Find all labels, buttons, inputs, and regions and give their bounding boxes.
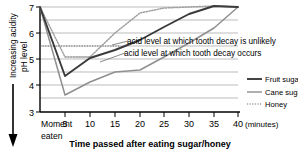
annotation-tooth-decay-occurs: acid level at which tooth decay occurs — [124, 49, 261, 58]
ph-level-line-chart: 7 6 5 4 3 5 10 15 20 25 30 35 40 ( — [0, 0, 298, 152]
annotation-tooth-decay-unlikely: acid level at which tooth decay is unlik… — [127, 37, 277, 46]
legend-label-honey: Honey — [265, 100, 287, 109]
legend-label-fruit-sugar: Fruit sugar — [265, 75, 298, 84]
chart-container: 7 6 5 4 3 5 10 15 20 25 30 35 40 ( — [0, 0, 298, 152]
legend-label-cane-sugar: Cane sugar — [265, 88, 298, 97]
origin-label-line1: Moment — [41, 119, 73, 129]
y-tick-label-4: 4 — [29, 81, 34, 91]
x-tick-label-25: 25 — [159, 119, 169, 129]
x-tick-label-40: 40 — [233, 119, 243, 129]
x-tick-label-30: 30 — [184, 119, 194, 129]
x-tick-label-20: 20 — [135, 119, 145, 129]
y-axis-title-acidity: Increasing acidity — [8, 12, 18, 78]
x-tick-label-10: 10 — [85, 119, 95, 129]
x-axis-unit-label: (minutes) — [245, 120, 279, 129]
y-tick-label-3: 3 — [29, 108, 34, 118]
y-axis-title-ph: pH level — [19, 42, 29, 72]
origin-label-line2: eaten — [41, 131, 63, 141]
x-tick-label-15: 15 — [110, 119, 120, 129]
y-tick-label-6: 6 — [29, 29, 34, 39]
y-tick-label-5: 5 — [29, 55, 34, 65]
x-axis-title: Time passed after eating sugar/honey — [69, 139, 230, 149]
y-tick-label-7: 7 — [29, 3, 34, 13]
x-tick-label-35: 35 — [209, 119, 219, 129]
